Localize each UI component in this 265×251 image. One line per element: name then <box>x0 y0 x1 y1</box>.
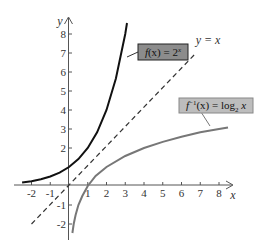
y-tick-label: 6 <box>61 66 67 78</box>
function-graph: -2 -1 1 2 3 4 5 6 7 8 x 8 7 6 5 4 3 2 -1… <box>0 0 265 251</box>
x-tick-label: 3 <box>123 187 129 199</box>
identity-line <box>32 53 197 224</box>
log-function-label: f−1(x) = log2 x <box>179 98 253 126</box>
y-tick-label: 8 <box>61 28 67 40</box>
y-tick-labels: 8 7 6 5 4 3 2 -1 -2 <box>57 28 67 230</box>
log-leader-line <box>201 112 210 126</box>
exp-curve <box>22 23 127 183</box>
x-tick-label: 4 <box>141 187 147 199</box>
x-tick-label: 6 <box>179 187 185 199</box>
exp-function-label: f(x) = 2x <box>127 44 188 60</box>
y-tick-label: 5 <box>61 85 67 97</box>
y-tick-label: 2 <box>61 142 67 154</box>
y-tick-label: 7 <box>61 47 67 59</box>
y-tick-label: 4 <box>61 104 67 116</box>
log-curve <box>72 127 228 233</box>
y-ticks <box>69 34 73 224</box>
y-tick-label: -2 <box>57 218 66 230</box>
x-tick-label: 2 <box>104 187 110 199</box>
x-tick-label: 7 <box>198 187 204 199</box>
x-tick-label: -2 <box>27 187 36 199</box>
x-tick-label: 8 <box>216 187 222 199</box>
x-tick-label: 5 <box>160 187 166 199</box>
y-tick-label: -1 <box>57 199 66 211</box>
y-axis-label: y <box>56 14 63 28</box>
x-axis-label: x <box>229 188 236 202</box>
exp-function-label-text: f(x) = 2x <box>145 46 182 59</box>
identity-line-label: y = x <box>195 33 221 47</box>
x-tick-label: -1 <box>46 187 55 199</box>
exp-leader-line <box>127 52 138 57</box>
x-tick-labels: -2 -1 1 2 3 4 5 6 7 8 <box>27 187 222 199</box>
y-tick-label: 3 <box>61 123 67 135</box>
